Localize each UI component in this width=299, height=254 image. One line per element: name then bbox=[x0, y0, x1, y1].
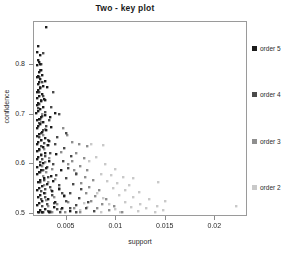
legend-label: order 2 bbox=[260, 184, 281, 191]
legend-item-order-3[interactable]: order 3 bbox=[252, 138, 281, 145]
y-tick-mark bbox=[29, 213, 33, 214]
legend-item-order-2[interactable]: order 2 bbox=[252, 184, 281, 191]
x-tick-mark bbox=[115, 216, 116, 220]
legend-item-order-4[interactable]: order 4 bbox=[252, 91, 281, 98]
x-tick-label: 0.015 bbox=[145, 222, 185, 229]
y-tick-mark bbox=[29, 163, 33, 164]
legend-swatch-icon bbox=[252, 92, 257, 97]
legend-swatch-icon bbox=[252, 185, 257, 190]
x-tick-label: 0.005 bbox=[46, 222, 86, 229]
legend-label: order 3 bbox=[260, 138, 281, 145]
legend-item-order-5[interactable]: order 5 bbox=[252, 45, 281, 52]
y-tick-label: 0.6 bbox=[5, 159, 25, 166]
y-tick-label: 0.8 bbox=[5, 60, 25, 67]
plot-area bbox=[33, 21, 247, 216]
x-tick-mark bbox=[165, 216, 166, 220]
scatter-plot-figure: Two - key plot confidence support 0.0050… bbox=[0, 0, 299, 254]
legend: order 5order 4order 3order 2 bbox=[252, 21, 299, 216]
legend-swatch-icon bbox=[252, 139, 257, 144]
page-title: Two - key plot bbox=[0, 3, 250, 13]
x-tick-label: 0.01 bbox=[95, 222, 135, 229]
y-tick-label: 0.5 bbox=[5, 209, 25, 216]
x-axis-title: support bbox=[33, 238, 247, 245]
y-axis-title: confidence bbox=[3, 77, 10, 137]
x-tick-mark bbox=[66, 216, 67, 220]
y-tick-mark bbox=[29, 114, 33, 115]
legend-label: order 5 bbox=[260, 45, 281, 52]
x-tick-label: 0.02 bbox=[194, 222, 234, 229]
y-tick-label: 0.7 bbox=[5, 110, 25, 117]
y-tick-mark bbox=[29, 64, 33, 65]
x-tick-mark bbox=[214, 216, 215, 220]
legend-swatch-icon bbox=[252, 46, 257, 51]
legend-label: order 4 bbox=[260, 91, 281, 98]
scatter-points-layer bbox=[34, 22, 246, 215]
